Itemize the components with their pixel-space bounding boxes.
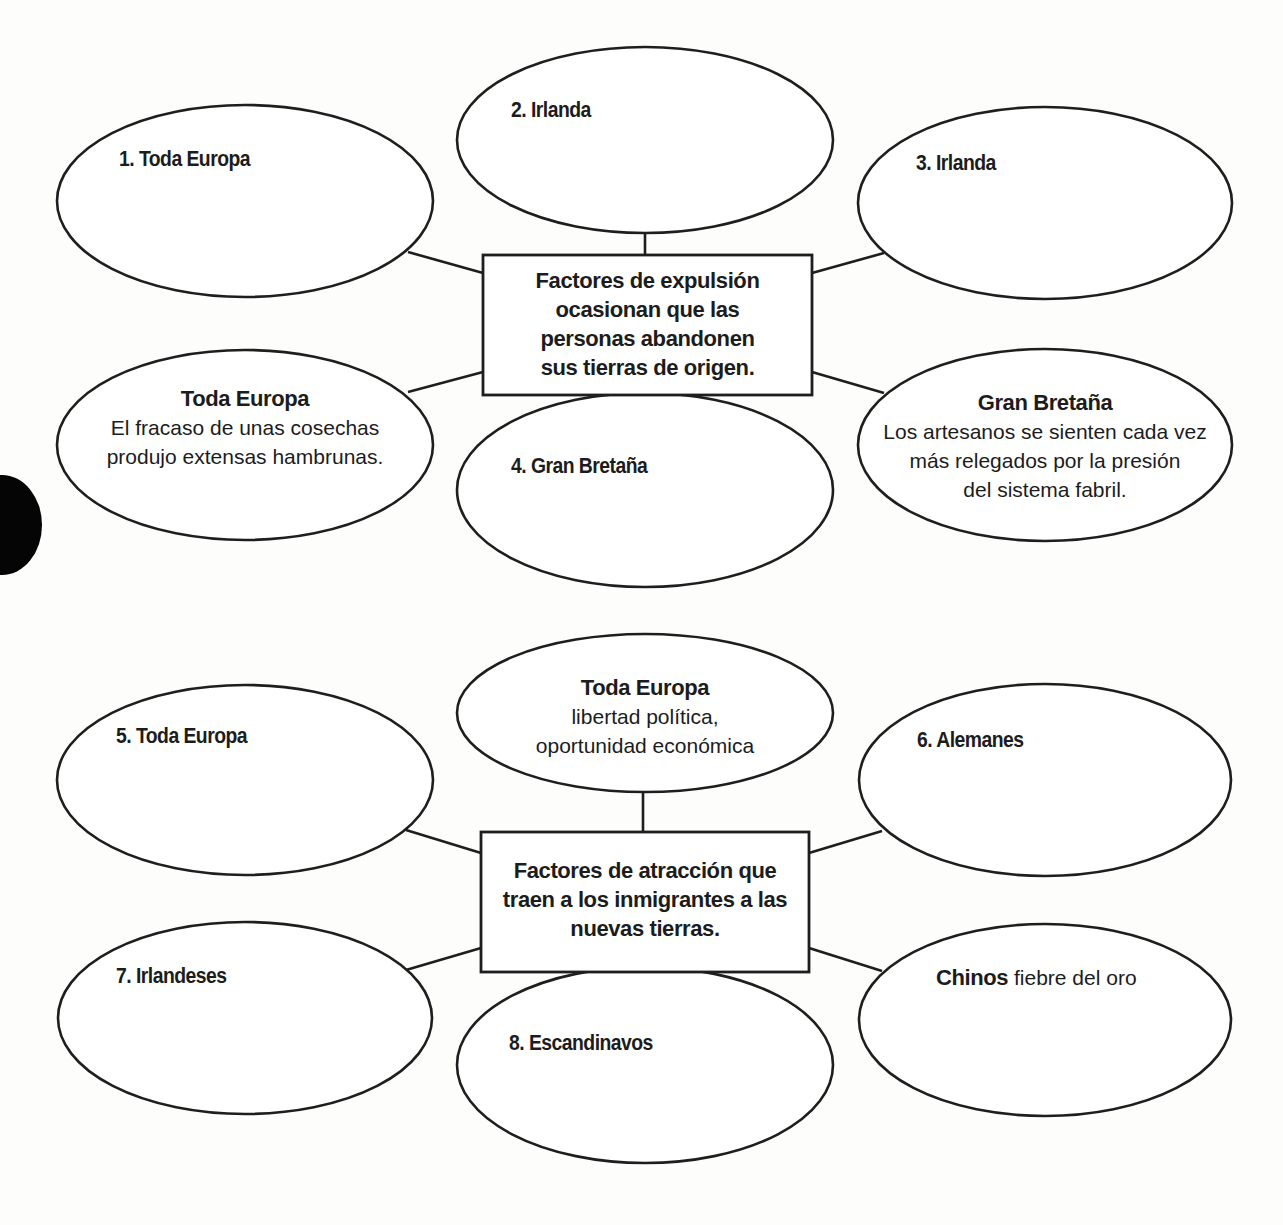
pull-example-right: Chinos fiebre del oro (936, 965, 1137, 991)
example-line: libertad política, (457, 702, 833, 731)
oval-pull-7[interactable] (58, 922, 432, 1114)
pull-center-line: nuevas tierras. (481, 914, 809, 943)
push-node-1-label: 1. Toda Europa (119, 146, 250, 172)
oval-pull-6[interactable] (859, 684, 1231, 876)
pull-center-text: Factores de atracción que traen a los in… (481, 856, 809, 943)
connector-upper-right (809, 831, 882, 853)
example-line: oportunidad económica (457, 731, 833, 760)
oval-pull-8[interactable] (457, 967, 833, 1163)
push-center-line: ocasionan que las (483, 295, 812, 324)
example-text: fiebre del oro (1014, 966, 1137, 989)
oval-push-3[interactable] (858, 107, 1232, 299)
push-node-2-label: 2. Irlanda (511, 97, 591, 123)
oval-push-1[interactable] (57, 105, 433, 297)
pull-example-top: Toda Europa libertad política, oportunid… (457, 673, 833, 760)
push-center-line: sus tierras de origen. (483, 353, 812, 382)
pull-node-5-label: 5. Toda Europa (116, 723, 247, 749)
pull-node-8-label: 8. Escandinavos (509, 1030, 653, 1056)
connector-upper-left (406, 830, 481, 853)
push-example-left: Toda Europa El fracaso de unas cosechas … (57, 384, 433, 471)
example-heading: Gran Bretaña (858, 388, 1232, 417)
pull-center-line: Factores de atracción que (481, 856, 809, 885)
example-heading: Toda Europa (57, 384, 433, 413)
pull-center-line: traen a los inmigrantes a las (481, 885, 809, 914)
example-line: Los artesanos se sienten cada vez (858, 417, 1232, 446)
example-heading: Chinos (936, 965, 1008, 990)
example-heading: Toda Europa (457, 673, 833, 702)
push-node-3-label: 3. Irlanda (916, 150, 996, 176)
example-line: del sistema fabril. (858, 475, 1232, 504)
push-center-text: Factores de expulsión ocasionan que las … (483, 266, 812, 382)
connector-upper-left (408, 252, 483, 273)
push-node-4-label: 4. Gran Bretaña (511, 453, 647, 479)
pull-node-6-label: 6. Alemanes (917, 727, 1023, 753)
connector-lower-left (406, 948, 481, 970)
push-example-right: Gran Bretaña Los artesanos se sienten ca… (858, 388, 1232, 504)
example-line: más relegados por la presión (858, 446, 1232, 475)
push-center-line: Factores de expulsión (483, 266, 812, 295)
oval-push-2[interactable] (457, 47, 833, 233)
connector-lower-right (809, 948, 882, 971)
push-center-line: personas abandonen (483, 324, 812, 353)
example-line: produjo extensas hambrunas. (57, 442, 433, 471)
oval-pull-5[interactable] (57, 685, 433, 875)
example-line: El fracaso de unas cosechas (57, 413, 433, 442)
oval-push-4[interactable] (457, 393, 833, 587)
pull-node-7-label: 7. Irlandeses (116, 963, 226, 989)
connector-upper-right (812, 253, 884, 273)
oval-pull-example-right (859, 924, 1231, 1116)
